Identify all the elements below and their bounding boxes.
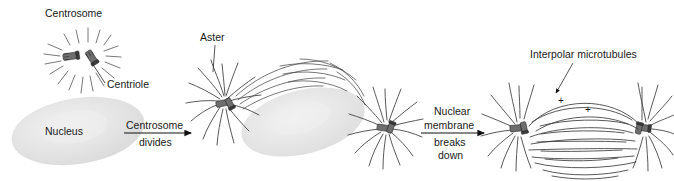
interpolar-microtubules-bundle [529, 103, 639, 179]
stage-1-interphase: Centrosome [7, 7, 150, 174]
interpolar-microtubules-pointer [556, 63, 573, 93]
centrosome-centriole-pair [63, 49, 100, 67]
plus-marker-2: + [585, 104, 591, 115]
arrow2-label-above-2: membrane [424, 119, 474, 131]
aster-label: Aster [200, 31, 225, 43]
centriole-label: Centriole [107, 78, 149, 90]
interpolar-microtubules-label: Interpolar microtubules [530, 48, 637, 60]
nucleus-stage-2 [234, 76, 372, 169]
centrosome-label: Centrosome [45, 7, 102, 19]
mitotic-spindle-diagram: Centrosome [0, 0, 674, 181]
arrow-nuclear-membrane-breaks-down: Nuclear membrane breaks down [421, 105, 484, 161]
stage-2-prophase: Aster [186, 31, 423, 169]
centrosome-left-stage-3 [510, 121, 529, 134]
stage-3-prometaphase: Interpolar microtubules [481, 48, 674, 179]
arrow2-label-below-1: breaks [434, 136, 466, 148]
arrow1-label-above: Centrosome [126, 119, 183, 131]
arrow2-label-below-2: down [438, 149, 463, 161]
nucleus-label: Nucleus [45, 125, 83, 137]
arrow2-label-above-1: Nuclear [434, 105, 471, 117]
plus-marker-1: + [558, 95, 564, 106]
centrosome-right-stage-2 [377, 120, 397, 134]
centriole-leader-line [92, 63, 105, 83]
arrow1-label-below: divides [139, 136, 172, 148]
arrow-centrosome-divides: Centrosome divides [124, 119, 191, 148]
